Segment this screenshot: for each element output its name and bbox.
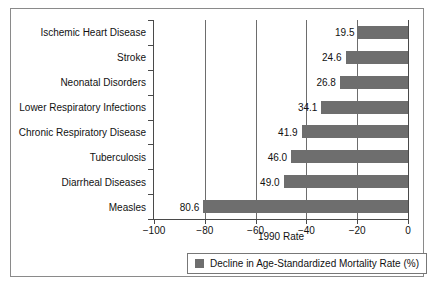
chart-figure: −100−80−60−40−20019.5Ischemic Heart Dise… — [10, 8, 424, 277]
x-tick-mark — [357, 219, 358, 224]
bar-row: 80.6Measles — [154, 200, 408, 213]
bar-value-label: 46.0 — [268, 151, 287, 162]
bar-row: 24.6Stroke — [154, 51, 408, 64]
bar — [291, 150, 408, 163]
x-tick-mark — [408, 219, 409, 224]
bar-row: 34.1Lower Respiratory Infections — [154, 101, 408, 114]
bar — [284, 175, 408, 188]
bar-value-label: 41.9 — [278, 126, 297, 137]
x-tick-mark — [256, 219, 257, 224]
bar — [321, 101, 408, 114]
category-label: Chronic Respiratory Disease — [19, 126, 146, 137]
plot-area: −100−80−60−40−20019.5Ischemic Heart Dise… — [153, 20, 409, 220]
bar-value-label: 49.0 — [260, 176, 279, 187]
bar-row: 19.5Ischemic Heart Disease — [154, 26, 408, 39]
bar-row: 26.8Neonatal Disorders — [154, 76, 408, 89]
x-tick-mark — [306, 219, 307, 224]
bar-value-label: 24.6 — [322, 52, 341, 63]
category-label: Stroke — [117, 52, 146, 63]
chart-legend: Decline in Age-Standardized Mortality Ra… — [187, 253, 427, 274]
y-tick-mark — [148, 45, 154, 46]
bar-value-label: 34.1 — [298, 102, 317, 113]
bar — [302, 125, 408, 138]
bar — [203, 200, 408, 213]
y-tick-mark — [148, 20, 154, 21]
category-label: Tuberculosis — [90, 151, 146, 162]
bar-value-label: 26.8 — [316, 77, 335, 88]
x-tick-mark — [205, 219, 206, 224]
bar — [346, 51, 408, 64]
x-axis-title: 1990 Rate — [153, 231, 409, 242]
y-tick-mark — [148, 120, 154, 121]
category-label: Diarrheal Diseases — [62, 176, 146, 187]
category-label: Ischemic Heart Disease — [40, 27, 146, 38]
y-tick-mark — [148, 169, 154, 170]
y-tick-mark — [148, 194, 154, 195]
y-tick-mark — [148, 144, 154, 145]
bar-value-label: 80.6 — [180, 201, 199, 212]
y-tick-mark — [148, 95, 154, 96]
bar-value-label: 19.5 — [335, 27, 354, 38]
y-tick-mark — [148, 70, 154, 71]
y-tick-mark — [148, 219, 154, 220]
bar — [358, 26, 408, 39]
x-tick-mark — [154, 219, 155, 224]
bar-row: 41.9Chronic Respiratory Disease — [154, 125, 408, 138]
legend-label: Decline in Age-Standardized Mortality Ra… — [210, 258, 419, 269]
bar — [340, 76, 408, 89]
category-label: Measles — [109, 201, 146, 212]
legend-color-swatch — [195, 259, 204, 268]
bar-row: 49.0Diarrheal Diseases — [154, 175, 408, 188]
category-label: Lower Respiratory Infections — [19, 102, 146, 113]
bar-row: 46.0Tuberculosis — [154, 150, 408, 163]
category-label: Neonatal Disorders — [60, 77, 146, 88]
